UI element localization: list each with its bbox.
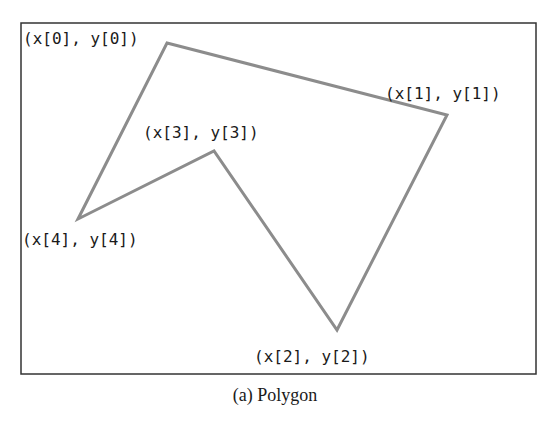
- vertex-label-4: (x[4], y[4]): [22, 230, 138, 249]
- vertex-label-2: (x[2], y[2]): [254, 347, 370, 366]
- polygon-figure: (x[0], y[0]) (x[1], y[1]) (x[2], y[2]) (…: [0, 0, 550, 426]
- figure-caption: (a) Polygon: [233, 385, 318, 406]
- vertex-label-3: (x[3], y[3]): [143, 123, 259, 142]
- vertex-label-1: (x[1], y[1]): [385, 84, 501, 103]
- vertex-label-0: (x[0], y[0]): [23, 29, 139, 48]
- figure-frame: [21, 23, 536, 374]
